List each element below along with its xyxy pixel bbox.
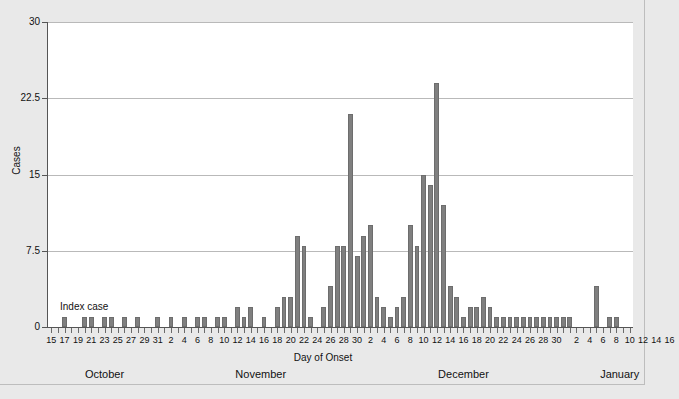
month-label-december: December (413, 368, 513, 381)
x-tick (437, 328, 438, 333)
x-tick (191, 328, 192, 333)
x-tick (616, 328, 617, 333)
x-tick (211, 328, 212, 333)
bar (328, 286, 333, 327)
x-tick (463, 328, 464, 333)
x-tick (550, 328, 551, 333)
month-band-labels: OctoberNovemberDecemberJanuary (48, 368, 633, 384)
x-tick (503, 328, 504, 333)
bar (607, 317, 612, 327)
x-tick (623, 328, 624, 333)
x-tick (377, 328, 378, 333)
bar (508, 317, 513, 327)
bar (202, 317, 207, 327)
bar-series (48, 22, 633, 327)
bar (468, 307, 473, 327)
x-tick (424, 328, 425, 333)
bar (415, 246, 420, 327)
bar (295, 236, 300, 328)
bar (594, 286, 599, 327)
x-tick (171, 328, 172, 333)
x-tick (324, 328, 325, 333)
bar (89, 317, 94, 327)
x-tick (590, 328, 591, 333)
bar (395, 307, 400, 327)
index-case-annotation: Index case (60, 301, 108, 312)
bar (348, 114, 353, 328)
bar (567, 317, 572, 327)
x-tick (224, 328, 225, 333)
bar (361, 236, 366, 328)
y-tick-label: 30 (0, 17, 40, 27)
x-tick (71, 328, 72, 333)
x-tick (344, 328, 345, 333)
x-tick (131, 328, 132, 333)
x-tick (277, 328, 278, 333)
bar (242, 317, 247, 327)
x-tick (78, 328, 79, 333)
x-tick (457, 328, 458, 333)
y-tick-label: 22.5 (0, 93, 40, 103)
bar (215, 317, 220, 327)
x-tick (231, 328, 232, 333)
x-tick (390, 328, 391, 333)
bar (109, 317, 114, 327)
y-tick-label: 15 (0, 170, 40, 180)
bar (501, 317, 506, 327)
bar (135, 317, 140, 327)
x-tick (543, 328, 544, 333)
x-tick (510, 328, 511, 333)
x-tick (570, 328, 571, 333)
x-tick (530, 328, 531, 333)
bar (521, 317, 526, 327)
x-tick (244, 328, 245, 333)
x-tick (370, 328, 371, 333)
x-tick (85, 328, 86, 333)
bar (428, 185, 433, 327)
month-label-october: October (55, 368, 155, 381)
month-label-november: November (211, 368, 311, 381)
bar (381, 307, 386, 327)
bar (82, 317, 87, 327)
x-tick (470, 328, 471, 333)
bar (282, 297, 287, 328)
x-tick (596, 328, 597, 333)
bar (262, 317, 267, 327)
bar (401, 297, 406, 328)
x-tick (404, 328, 405, 333)
bar (408, 225, 413, 327)
x-tick (178, 328, 179, 333)
bar (514, 317, 519, 327)
bar (541, 317, 546, 327)
x-tick (297, 328, 298, 333)
x-tick (430, 328, 431, 333)
x-tick (284, 328, 285, 333)
bar (534, 317, 539, 327)
bar (548, 317, 553, 327)
x-tick (603, 328, 604, 333)
bar (554, 317, 559, 327)
x-tick (610, 328, 611, 333)
x-tick (144, 328, 145, 333)
bar (474, 307, 479, 327)
x-tick (497, 328, 498, 333)
x-tick (271, 328, 272, 333)
bar (454, 297, 459, 328)
x-tick (291, 328, 292, 333)
plot-area (48, 22, 633, 327)
bar (195, 317, 200, 327)
x-tick (490, 328, 491, 333)
x-tick (138, 328, 139, 333)
bar (528, 317, 533, 327)
x-tick (397, 328, 398, 333)
x-tick (557, 328, 558, 333)
x-tick (218, 328, 219, 333)
x-tick (257, 328, 258, 333)
bar (102, 317, 107, 327)
x-tick (237, 328, 238, 333)
x-tick (483, 328, 484, 333)
x-tick (184, 328, 185, 333)
bar (421, 175, 426, 328)
x-axis-title: Day of Onset (0, 352, 646, 363)
bar (222, 317, 227, 327)
